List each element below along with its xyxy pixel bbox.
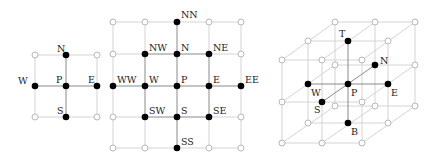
label-ee: EE [245, 74, 259, 85]
node-nn [174, 19, 181, 26]
label-e: E [213, 74, 220, 85]
node-s [174, 114, 181, 121]
label-b: B [351, 126, 358, 137]
node-ne [206, 51, 213, 58]
node-n [372, 62, 379, 69]
label-ww: WW [117, 74, 137, 85]
node-ss [174, 145, 181, 152]
label-sw: SW [149, 105, 166, 116]
stencil-diagrams: N W P E S [0, 0, 437, 164]
label-se: SE [213, 105, 227, 116]
label-n: N [380, 55, 388, 66]
node-n [174, 51, 181, 58]
label-t: T [339, 28, 346, 39]
label-p: P [56, 74, 63, 85]
label-w: W [18, 75, 28, 86]
node-nw [142, 51, 149, 58]
grid-node [94, 52, 100, 58]
label-s: S [57, 105, 64, 116]
label-n: N [181, 42, 189, 53]
label-p: P [351, 87, 358, 98]
label-w: W [311, 87, 321, 98]
node-ee [238, 83, 245, 90]
node-p [63, 83, 70, 90]
grid-node [32, 52, 38, 58]
label-nn: NN [181, 9, 198, 20]
node-se [206, 114, 213, 121]
node-w [142, 83, 149, 90]
grid-node [94, 114, 100, 120]
figure-13-point-stencil: NN NW N NE WW W P E EE SW S SE SS [110, 9, 259, 151]
label-s: S [314, 104, 321, 115]
node-s [63, 114, 70, 121]
grid-node [32, 114, 38, 120]
node-t [345, 38, 352, 45]
node-p [174, 83, 181, 90]
node-sw [142, 114, 149, 121]
figure-5-point-stencil: N W P E S [18, 43, 100, 120]
label-w: W [149, 74, 159, 85]
label-ss: SS [181, 136, 194, 147]
figure-3d-7-point-stencil: T N W P E S B [279, 19, 418, 146]
label-n: N [57, 43, 65, 54]
label-e: E [88, 74, 95, 85]
node-ww [110, 83, 117, 90]
label-p: P [181, 74, 188, 85]
label-ne: NE [213, 42, 228, 53]
label-nw: NW [149, 42, 167, 53]
label-e: E [391, 87, 398, 98]
node-w [32, 83, 39, 90]
node-e [206, 83, 213, 90]
label-s: S [181, 105, 188, 116]
